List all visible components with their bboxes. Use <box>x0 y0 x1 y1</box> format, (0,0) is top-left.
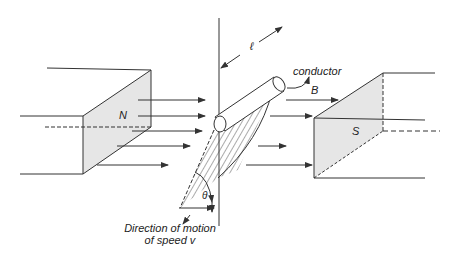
magnetic-field-diagram <box>0 0 454 254</box>
field-label: B <box>311 84 318 96</box>
motion-caption-line1: Direction of motion <box>120 222 220 234</box>
angle-label: θ <box>202 190 207 202</box>
south-pole-magnet <box>314 73 440 178</box>
north-pole-label: N <box>119 109 127 121</box>
length-label: ℓ <box>250 40 254 52</box>
conductor-pointer <box>287 77 309 88</box>
north-pole-magnet <box>20 68 151 174</box>
south-pole-label: S <box>352 125 359 137</box>
motion-caption-line2: of speed v <box>120 234 220 246</box>
conductor-label: conductor <box>293 65 341 77</box>
motion-caption: Direction of motion of speed v <box>120 222 220 246</box>
